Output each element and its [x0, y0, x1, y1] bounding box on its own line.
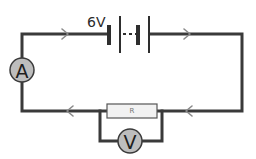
wire-bottom-left: [22, 82, 107, 111]
current-arrows: [62, 29, 192, 116]
voltmeter: V: [118, 129, 142, 153]
ammeter-symbol: A: [16, 60, 29, 82]
wire-top-left: [22, 34, 108, 58]
battery-voltage-label: 6V: [87, 14, 106, 30]
ammeter: A: [10, 58, 34, 82]
resistor-label: R: [130, 107, 135, 115]
voltmeter-symbol: V: [124, 131, 137, 153]
wire-top-right: [150, 34, 242, 111]
circuit-diagram: 6V A R V: [0, 0, 256, 159]
battery-cell-1-negative-plate: [107, 25, 111, 45]
resistor: R: [107, 104, 157, 118]
battery-cell-1-positive-plate: [119, 16, 121, 53]
battery-cell-2-negative-plate: [136, 25, 140, 45]
circuit-wires: [22, 34, 242, 141]
battery-cell-2-positive-plate: [148, 16, 150, 53]
